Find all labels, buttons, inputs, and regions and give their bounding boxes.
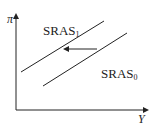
sras1-label: SRAS1 <box>43 24 80 39</box>
sras1-subscript: 1 <box>76 30 80 39</box>
diagram-svg <box>0 0 157 129</box>
y-axis-label: π <box>7 13 13 25</box>
sras0-name: SRAS <box>101 66 134 81</box>
sras0-label: SRAS0 <box>101 67 138 82</box>
diagram-canvas: π Y SRAS1 SRAS0 <box>0 0 157 129</box>
x-axis-label: Y <box>138 113 145 125</box>
sras1-name: SRAS <box>43 23 76 38</box>
sras0-subscript: 0 <box>134 73 138 82</box>
